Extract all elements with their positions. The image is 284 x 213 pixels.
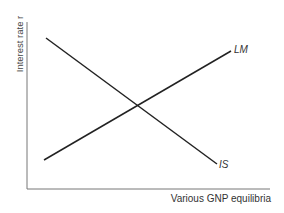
lm-curve [44,51,231,160]
lm-label: LM [234,44,248,55]
y-axis-label-text: Interest rate r [14,16,25,73]
is-curve [46,38,217,164]
x-axis-label: Various GNP equilibria [171,193,271,204]
y-axis-label: Interest rate r [12,6,26,82]
is-lm-chart [0,0,284,213]
is-label: IS [219,159,228,170]
